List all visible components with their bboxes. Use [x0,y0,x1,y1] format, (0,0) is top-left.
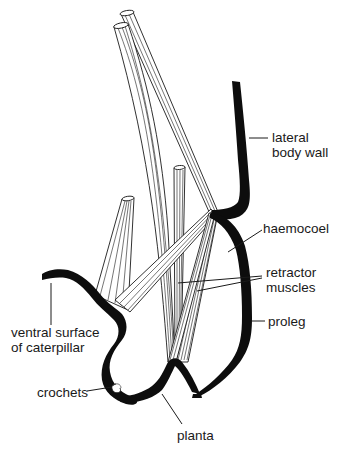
proleg-diagram: lateral body wall haemocoel retractor mu… [0,0,338,452]
long-muscle-rear [120,9,218,214]
right-crochet-shape [192,394,202,398]
label-ventral-surface-2: of caterpillar [11,340,85,355]
label-lateral-body-wall-2: body wall [272,145,328,160]
lateral-body-wall-shape [210,81,250,219]
label-crochets: crochets [37,385,88,400]
planta-shape [120,358,200,402]
label-ventral-surface-1: ventral surface [11,325,100,340]
label-retractor-1: retractor [266,265,317,280]
long-muscle-front [113,21,175,362]
label-retractor-2: muscles [266,280,316,295]
label-planta: planta [177,428,214,443]
label-proleg: proleg [268,314,306,329]
label-lateral-body-wall-1: lateral [272,130,309,145]
left-crochets-shape [112,384,121,393]
leader-planta [162,394,182,424]
leader-retractor-2 [197,278,262,291]
label-haemocoel: haemocoel [263,221,329,236]
